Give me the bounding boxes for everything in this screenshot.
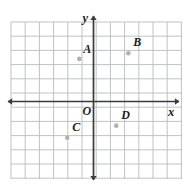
data-point-d — [114, 123, 119, 128]
coordinate-plane: ABCD y x O — [0, 0, 194, 195]
x-axis-label: x — [168, 106, 174, 119]
y-axis-label: y — [83, 12, 89, 25]
point-label-a: A — [83, 43, 91, 55]
axis-lines — [8, 16, 180, 181]
data-point-a — [77, 57, 82, 62]
point-label-d: D — [121, 109, 130, 121]
data-point-b — [126, 51, 131, 56]
point-label-b: B — [133, 36, 141, 48]
data-point-c — [65, 135, 70, 140]
graph-canvas — [0, 0, 194, 195]
grid-lines — [11, 22, 182, 179]
point-label-c: C — [72, 121, 80, 133]
origin-label: O — [83, 105, 92, 117]
